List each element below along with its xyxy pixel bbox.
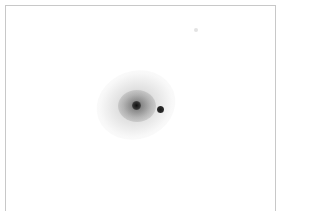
point-source [157,106,164,113]
galaxy-core [132,101,141,110]
faint-source [194,28,198,32]
